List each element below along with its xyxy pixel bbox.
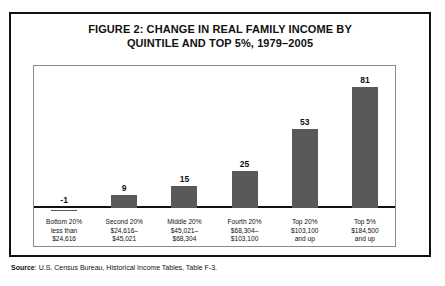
category-axis-line <box>34 206 395 208</box>
bar-value-label: 25 <box>240 159 249 169</box>
category-tick-line: Second 20% <box>94 218 154 227</box>
category-tick-line: less than <box>34 227 94 236</box>
category-tick-label: Second 20%$24,616–$45,021 <box>94 218 154 244</box>
bar[interactable] <box>51 210 77 212</box>
category-tick-line: Top 5% <box>335 218 395 227</box>
bar-value-label: 15 <box>180 174 189 184</box>
category-tick-line: $24,616 <box>34 235 94 244</box>
source-separator: : <box>35 264 37 271</box>
category-tick-line: $103,100 <box>215 235 275 244</box>
category-tick-line: $68,304– <box>215 227 275 236</box>
bar-value-label: -1 <box>60 195 68 205</box>
category-tick-label: Top 20%$103,100and up <box>275 218 335 244</box>
figure-frame: FIGURE 2: CHANGE IN REAL FAMILY INCOME B… <box>9 12 431 257</box>
bar[interactable] <box>171 186 197 209</box>
source-text: U.S. Census Bureau, Historical Income Ta… <box>39 264 217 271</box>
bar-value-label: 9 <box>122 183 127 193</box>
bar[interactable] <box>292 129 318 209</box>
category-tick-label: Top 5%$184,500and up <box>335 218 395 244</box>
source-note: Source: U.S. Census Bureau, Historical I… <box>11 263 217 273</box>
chart-plot-box: -1Bottom 20%less than$24,6169Second 20%$… <box>33 65 396 247</box>
chart-plot-area: -1Bottom 20%less than$24,6169Second 20%$… <box>34 66 395 246</box>
category-tick-line: $45,021– <box>154 227 214 236</box>
category-tick-line: $68,304 <box>154 235 214 244</box>
category-tick-line: Fourth 20% <box>215 218 275 227</box>
bar[interactable] <box>111 195 137 209</box>
category-tick-line: $184,500 <box>335 227 395 236</box>
bar[interactable] <box>352 87 378 209</box>
page-title: FIGURE 2: CHANGE IN REAL FAMILY INCOME B… <box>11 22 429 50</box>
category-tick-label: Middle 20%$45,021–$68,304 <box>154 218 214 244</box>
bar-value-label: 81 <box>360 75 369 85</box>
category-tick-line: and up <box>275 235 335 244</box>
category-tick-line: $24,616– <box>94 227 154 236</box>
source-label: Source <box>11 264 35 271</box>
bar-value-label: 53 <box>300 117 309 127</box>
category-tick-label: Fourth 20%$68,304–$103,100 <box>215 218 275 244</box>
figure-title-line-2: QUINTILE AND TOP 5%, 1979–2005 <box>11 36 429 50</box>
bar[interactable] <box>232 171 258 209</box>
category-tick-line: and up <box>335 235 395 244</box>
category-tick-line: Top 20% <box>275 218 335 227</box>
figure-title-line-1: FIGURE 2: CHANGE IN REAL FAMILY INCOME B… <box>11 22 429 36</box>
category-tick-line: $103,100 <box>275 227 335 236</box>
category-tick-line: $45,021 <box>94 235 154 244</box>
category-tick-line: Middle 20% <box>154 218 214 227</box>
category-tick-line: Bottom 20% <box>34 218 94 227</box>
category-tick-label: Bottom 20%less than$24,616 <box>34 218 94 244</box>
